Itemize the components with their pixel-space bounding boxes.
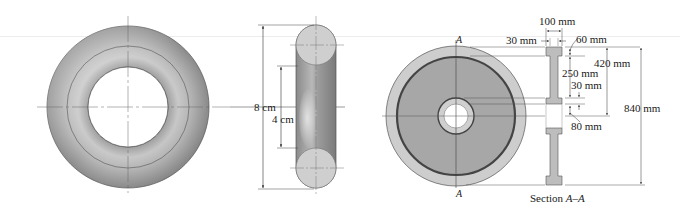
section-caption: Section A–A (530, 193, 585, 204)
label-80mm: 80 mm (571, 121, 602, 132)
label-4cm: 4 cm (272, 114, 294, 125)
flywheel-front-view (382, 40, 545, 188)
label-30mm-web: 30 mm (506, 35, 537, 46)
label-420mm: 420 mm (594, 58, 630, 69)
torus-top-view (37, 16, 230, 193)
label-250mm: 250 mm (562, 68, 598, 79)
label-cut-a-bottom: A (456, 189, 462, 199)
section-caption-prefix: Section (530, 192, 566, 204)
section-caption-name: A–A (566, 192, 585, 204)
label-8cm: 8 cm (254, 102, 276, 113)
label-60mm: 60 mm (576, 34, 607, 45)
section-upper-profile (546, 47, 562, 104)
label-100mm: 100 mm (539, 16, 575, 27)
label-30mm-hub: 30 mm (571, 80, 602, 91)
section-lower-profile (546, 128, 562, 185)
label-840mm: 840 mm (624, 103, 660, 114)
label-cut-a-top: A (456, 35, 462, 45)
